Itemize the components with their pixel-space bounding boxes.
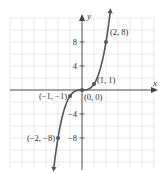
x-axis-label: x xyxy=(152,78,157,88)
y-axis-arrow-icon xyxy=(79,14,85,21)
data-point-label: (−2, −8) xyxy=(27,133,55,143)
data-point-marker xyxy=(104,40,108,44)
y-tick-label: −8 xyxy=(68,133,77,143)
y-tick-label: 8 xyxy=(73,37,77,47)
data-point-label: (1, 1) xyxy=(97,75,116,85)
curve-arrow-top-icon xyxy=(107,8,112,13)
data-points: (−2, −8)(−1, −1)(0, 0)(1, 1)(2, 8) xyxy=(27,27,129,143)
data-point-label: (−1, −1) xyxy=(39,91,67,101)
data-point-marker xyxy=(68,94,72,98)
cubic-function-graph: x y 84−4−8 (−2, −8)(−1, −1)(0, 0)(1, 1)(… xyxy=(0,0,165,173)
curve-arrow-bottom-icon xyxy=(51,167,56,172)
y-tick-label: −4 xyxy=(68,109,78,119)
data-point-label: (0, 0) xyxy=(84,92,103,102)
data-point-marker xyxy=(56,136,60,140)
data-point-marker xyxy=(92,82,96,86)
grid xyxy=(10,18,155,168)
data-point-label: (2, 8) xyxy=(110,27,129,37)
y-axis-label: y xyxy=(86,11,91,21)
